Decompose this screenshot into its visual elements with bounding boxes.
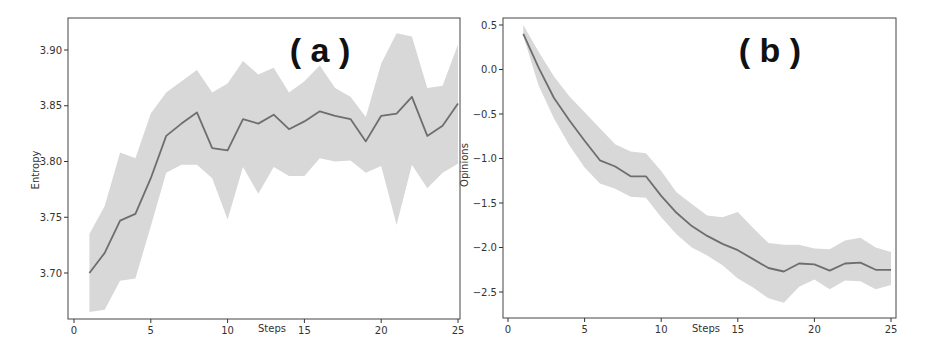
- y-tick-label: 3.80: [40, 156, 62, 167]
- x-tick-label: 10: [221, 325, 234, 336]
- y-tick-label: −1.5: [473, 198, 497, 209]
- x-tick-label: 5: [148, 325, 154, 336]
- x-tick-label: 0: [505, 324, 511, 335]
- y-tick-label: 0.5: [481, 20, 497, 31]
- x-tick-label: 0: [71, 325, 77, 336]
- y-tick-label: 3.85: [40, 100, 62, 111]
- y-tick-label: 3.90: [40, 45, 62, 56]
- x-tick-label: 25: [885, 324, 898, 335]
- entropy-y-ticks: 3.703.753.803.853.90: [40, 45, 68, 279]
- panel-label-b: ( b ): [739, 31, 801, 69]
- x-tick-label: 15: [298, 325, 311, 336]
- chart-entropy: 0510152025 3.703.753.803.853.90 Steps En…: [30, 18, 464, 336]
- x-tick-label: 25: [452, 325, 465, 336]
- y-tick-label: 3.75: [40, 212, 62, 223]
- x-tick-label: 10: [655, 324, 668, 335]
- x-tick-label: 15: [731, 324, 744, 335]
- entropy-confidence-band: [89, 33, 458, 312]
- y-tick-label: −0.5: [473, 109, 497, 120]
- chart-opinions: 0510152025 0.50.0−0.5−1.0−1.5−2.0−2.5 St…: [459, 18, 897, 335]
- entropy-x-axis-label: Steps: [258, 323, 286, 334]
- panel-label-a: ( a ): [290, 31, 350, 69]
- x-tick-label: 20: [808, 324, 821, 335]
- x-tick-label: 5: [581, 324, 587, 335]
- opinions-y-axis-label: Opinions: [459, 143, 470, 187]
- y-tick-label: 0.0: [481, 64, 497, 75]
- entropy-y-axis-label: Entropy: [30, 150, 41, 189]
- y-tick-label: −2.5: [473, 287, 497, 298]
- opinions-y-ticks: 0.50.0−0.5−1.0−1.5−2.0−2.5: [473, 20, 503, 298]
- y-tick-label: −1.0: [473, 153, 497, 164]
- y-tick-label: −2.0: [473, 242, 497, 253]
- opinions-x-axis-label: Steps: [692, 323, 720, 334]
- figure: 0510152025 3.703.753.803.853.90 Steps En…: [0, 0, 928, 358]
- opinions-confidence-band: [523, 25, 891, 303]
- y-tick-label: 3.70: [40, 268, 62, 279]
- x-tick-label: 20: [375, 325, 388, 336]
